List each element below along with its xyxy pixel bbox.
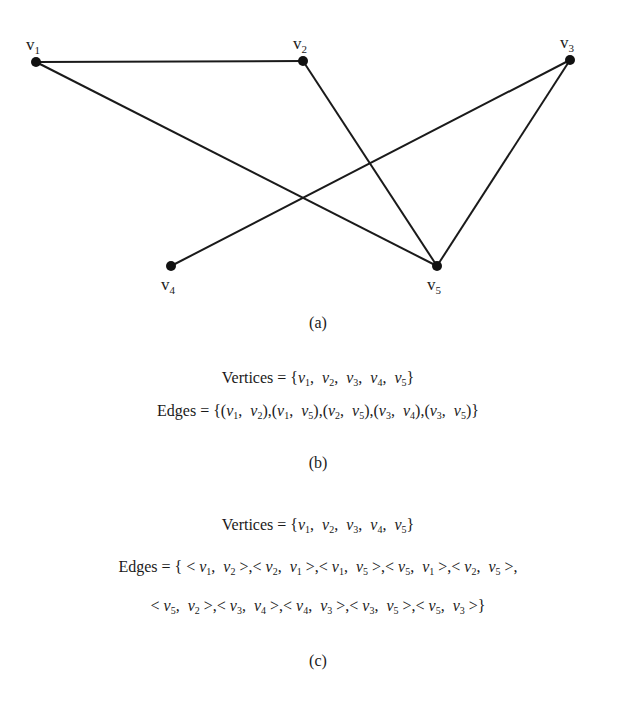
vertex-label-v2: v2	[293, 35, 307, 55]
edge-v1-v5	[36, 62, 437, 266]
edges-label-c: Edges =	[118, 558, 174, 575]
graph-diagram	[0, 0, 636, 300]
vertex-label-v4: v4	[161, 276, 175, 296]
edges-list-c-line1: { < v1, v2 >,< v2, v1 >,< v1, v5 >,< v5,…	[175, 558, 518, 575]
edges-label-b: Edges =	[157, 402, 213, 419]
vertex-v3	[565, 55, 575, 65]
edges-set-b: Edges = {(v1, v2),(v1, v5),(v2, v5),(v3,…	[0, 403, 636, 421]
caption-b: (b)	[0, 455, 636, 471]
vertices-set-c: Vertices = {v1, v2, v3, v4, v5}	[0, 517, 636, 535]
vertex-label-v3: v3	[560, 34, 574, 54]
vertices-list-c: {v1, v2, v3, v4, v5}	[290, 516, 414, 533]
vertex-label-v1: v1	[26, 36, 40, 56]
vertices-label-b: Vertices =	[222, 369, 291, 386]
edges-list-c-line2: < v5, v2 >,< v3, v4 >,< v4, v3 >,< v3, v…	[150, 597, 485, 614]
vertex-label-v5: v5	[427, 276, 441, 296]
caption-a: (a)	[0, 315, 636, 331]
vertex-v5	[432, 261, 442, 271]
edges-set-c-line1: Edges = { < v1, v2 >,< v2, v1 >,< v1, v5…	[0, 559, 636, 577]
vertices-set-b: Vertices = {v1, v2, v3, v4, v5}	[0, 370, 636, 388]
vertices-list-b: {v1, v2, v3, v4, v5}	[290, 369, 414, 386]
edge-v3-v5	[437, 60, 570, 266]
edge-v1-v2	[36, 61, 303, 62]
vertex-v1	[31, 57, 41, 67]
vertex-v2	[298, 56, 308, 66]
vertices-label-c: Vertices =	[222, 516, 291, 533]
caption-c: (c)	[0, 653, 636, 669]
vertex-v4	[166, 261, 176, 271]
edges-list-b: {(v1, v2),(v1, v5),(v2, v5),(v3, v4),(v3…	[213, 402, 479, 419]
edge-v3-v4	[171, 60, 570, 266]
edges-set-c-line2: < v5, v2 >,< v3, v4 >,< v4, v3 >,< v3, v…	[0, 598, 636, 616]
